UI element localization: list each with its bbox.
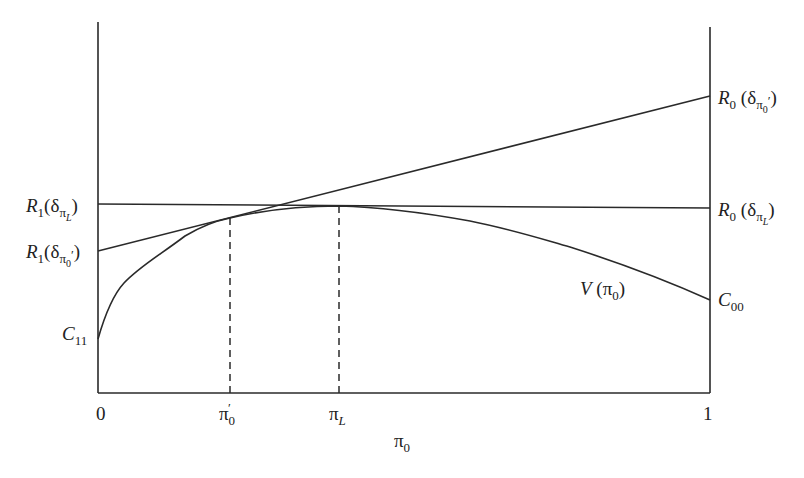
line-r-delta-pi-l <box>98 204 710 208</box>
x-tick-pi-l: πL <box>329 403 346 428</box>
label-v-pi0: V (π0) <box>580 278 625 303</box>
label-c11: C11 <box>62 323 87 348</box>
risk-diagram: R1(δπL) R1(δπ0′) C11 R0 (δπ0′) R0 (δπL) … <box>0 0 804 478</box>
x-tick-0: 0 <box>96 403 106 424</box>
line-r-delta-pi0-prime <box>98 96 710 251</box>
x-tick-1: 1 <box>703 403 713 424</box>
x-tick-pi0-prime: π0′ <box>219 400 235 428</box>
x-axis-label: π0 <box>394 430 410 455</box>
label-r1-delta-pi0-prime: R1(δπ0′) <box>25 241 80 269</box>
label-r0-delta-pi-l: R0 (δπL) <box>717 199 775 227</box>
label-r1-delta-pi-l: R1(δπL) <box>25 195 78 223</box>
label-c00: C00 <box>718 289 744 314</box>
curve-v-pi0 <box>98 206 710 339</box>
label-r0-delta-pi0-prime: R0 (δπ0′) <box>717 87 777 115</box>
